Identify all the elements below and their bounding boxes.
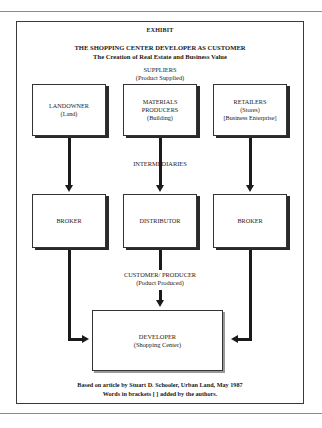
box-line: DISTRIBUTOR	[140, 217, 181, 225]
diagram-title: THE SHOPPING CENTER DEVELOPER AS CUSTOME…	[16, 45, 304, 52]
intermediaries-label: INTERMEDIARIES	[16, 161, 304, 167]
suppliers-sublabel: (Product Supplied)	[16, 75, 304, 81]
box-line: [Business Enterprise]	[223, 114, 276, 122]
arrow-right-icon	[82, 335, 89, 343]
broker-box-right: BROKER	[213, 194, 287, 248]
box-line: (Land)	[61, 110, 78, 118]
box-line: BROKER	[237, 217, 262, 225]
retailers-box: RETAILERS (Stores) [Business Enterprise]	[213, 84, 287, 136]
materials-producers-box: MATERIALS PRODUCERS (Building)	[123, 84, 197, 136]
connector-line	[249, 250, 252, 341]
exhibit-label: EXHIBIT	[16, 27, 304, 33]
box-line: (Building)	[147, 114, 173, 122]
brackets-note: Words in brackets [ ] added by the autho…	[16, 391, 304, 397]
box-line: RETAILERS	[234, 98, 267, 106]
diagram-subtitle: The Creation of Real Estate and Business…	[16, 54, 304, 61]
suppliers-label: SUPPLIERS	[16, 67, 304, 73]
arrow-left-icon	[231, 335, 238, 343]
developer-box: DEVELOPER (Shopping Center)	[92, 310, 223, 371]
landowner-box: LANDOWNER (Land)	[32, 84, 106, 136]
box-line: (Stores)	[240, 106, 260, 114]
customer-producer-label: CUSTOMER/ PRODUCER	[16, 272, 304, 278]
connector-line	[159, 250, 162, 270]
box-line: (Shopping Center)	[134, 341, 181, 349]
connector-line	[238, 338, 252, 341]
customer-producer-sublabel: (Poduct Produced)	[16, 280, 304, 286]
top-rule	[0, 11, 322, 12]
source-note: Based on article by Stuart D. Schooler, …	[16, 382, 304, 388]
box-line: LANDOWNER	[49, 102, 89, 110]
connector-line	[68, 250, 71, 341]
bottom-rule	[0, 413, 322, 414]
arrow-down-icon	[65, 185, 73, 192]
arrow-down-icon	[246, 185, 254, 192]
arrow-down-icon	[156, 185, 164, 192]
connector-line	[68, 338, 82, 341]
broker-box-left: BROKER	[32, 194, 106, 248]
arrow-down-icon	[156, 300, 164, 307]
box-line: MATERIALS	[143, 98, 178, 106]
box-line: PRODUCERS	[142, 106, 178, 114]
box-line: BROKER	[56, 217, 81, 225]
box-line: DEVELOPER	[139, 333, 176, 341]
distributor-box: DISTRIBUTOR	[123, 194, 197, 248]
